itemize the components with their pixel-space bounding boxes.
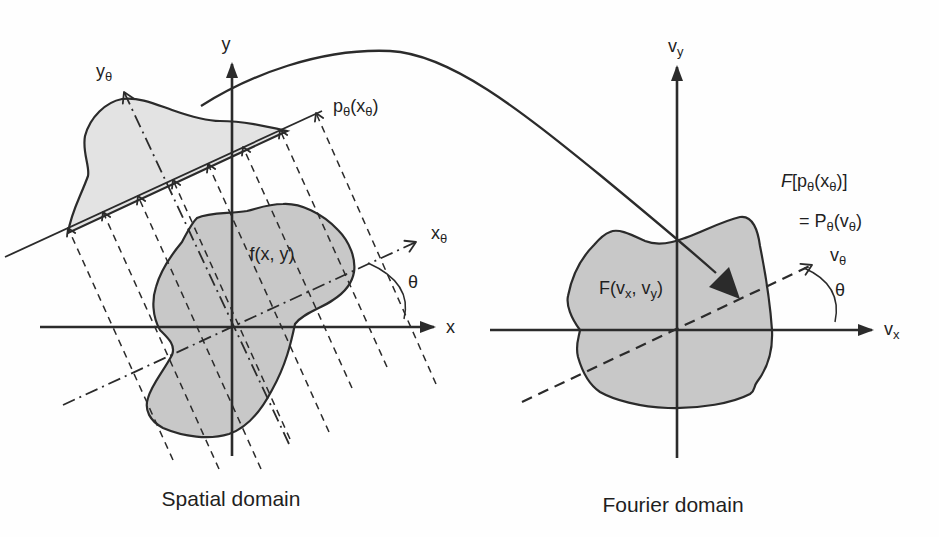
object-blob [147, 204, 355, 437]
y-axis-label: y [222, 34, 231, 54]
theta-label-fourier: θ [835, 280, 845, 300]
theta-label-spatial: θ [408, 272, 418, 292]
theta-arc-fourier [804, 268, 836, 322]
figure-canvas: y x yθ xθ θ f(x, y) pθ(xθ) Spatial domai… [0, 0, 939, 537]
spatial-domain-panel: y x yθ xθ θ f(x, y) pθ(xθ) Spatial domai… [5, 34, 455, 510]
transform-equation-line2: = Pθ(vθ) [799, 211, 862, 234]
fourier-domain-panel: vy vx vθ θ F(vx, vy) F[pθ(xθ)] = Pθ(vθ) … [490, 36, 900, 516]
fourier-domain-caption: Fourier domain [602, 493, 743, 516]
fourier-slice-theorem-diagram: y x yθ xθ θ f(x, y) pθ(xθ) Spatial domai… [0, 0, 939, 537]
spatial-domain-caption: Spatial domain [162, 487, 301, 510]
vx-axis-label: vx [884, 319, 900, 342]
theta-arc-spatial [368, 263, 406, 319]
y-theta-axis-label: yθ [96, 61, 112, 84]
vy-axis-label: vy [668, 36, 684, 59]
v-theta-label: vθ [830, 245, 846, 268]
x-theta-axis-label: xθ [431, 223, 447, 246]
transform-equation-line1: F[pθ(xθ)] [781, 171, 847, 194]
fourier-blob [568, 217, 773, 408]
projection-ray-1 [68, 228, 173, 460]
object-function-label: f(x, y) [250, 244, 295, 264]
x-axis-label: x [446, 317, 455, 337]
projection-label: pθ(xθ) [333, 96, 378, 119]
